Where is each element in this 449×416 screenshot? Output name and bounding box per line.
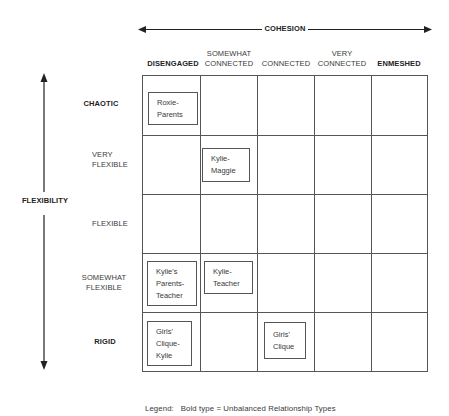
row-header-flexible: FLEXIBLE [56, 219, 132, 229]
cohesion-axis-label: COHESION [262, 24, 308, 34]
relationship-girls-clique-kylie: Girls' Clique- Kylie [147, 321, 192, 366]
grid-row-divider [143, 194, 427, 195]
grid-column-divider [257, 76, 258, 371]
relationship-kylie-maggie: Kylie- Maggie [202, 148, 250, 182]
grid-row-divider [143, 312, 427, 313]
row-header-rigid: RIGID [80, 337, 130, 347]
relationship-girls-clique: Girls' Clique [264, 322, 306, 359]
column-header-disengaged: DISENGAGED [143, 49, 203, 69]
legend-text: Bold type = Unbalanced Relationship Type… [181, 404, 336, 413]
column-header-enmeshed: ENMESHED [369, 49, 429, 69]
row-header-somewhat-flexible: SOMEWHAT FLEXIBLE [74, 273, 134, 293]
column-header-very-connected: VERY CONNECTED [312, 49, 372, 69]
legend: Legend: Bold type = Unbalanced Relations… [145, 404, 336, 414]
flexibility-arrow [38, 72, 50, 372]
grid-column-divider [314, 76, 315, 371]
flexibility-axis-label: FLEXIBILITY [18, 196, 72, 206]
relationship-kylies-parents-teacher: Kylie's Parents- Teacher [147, 261, 197, 306]
grid-column-divider [371, 76, 372, 371]
grid-column-divider [200, 76, 201, 371]
row-header-chaotic: CHAOTIC [66, 99, 136, 109]
relationship-roxie-parents: Roxie- Parents [148, 92, 198, 125]
column-header-connected: CONNECTED [256, 49, 316, 69]
grid-row-divider [143, 135, 427, 136]
relationship-kylie-teacher: Kylie- Teacher [204, 261, 253, 294]
row-header-very-flexible: VERY FLEXIBLE [56, 150, 132, 170]
column-header-somewhat-connected: SOMEWHAT CONNECTED [199, 49, 259, 69]
grid-row-divider [143, 253, 427, 254]
legend-label: Legend: [145, 404, 174, 413]
